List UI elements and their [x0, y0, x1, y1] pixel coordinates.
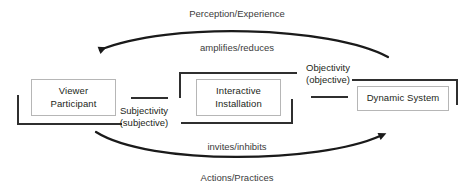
- label-subjectivity-line2: (subjective): [108, 117, 180, 129]
- label-perception-experience: Perception/Experience: [0, 8, 474, 19]
- node-viewer-participant-line1: Viewer: [59, 85, 88, 98]
- rule-subjectivity: [131, 97, 168, 99]
- label-invites-inhibits: invites/inhibits: [0, 141, 474, 152]
- label-subjectivity: Subjectivity (subjective): [108, 105, 180, 129]
- node-viewer-participant: Viewer Participant: [31, 79, 116, 116]
- node-interactive-installation-line1: Interactive: [216, 85, 261, 98]
- node-interactive-installation-line2: Installation: [215, 98, 262, 111]
- label-subjectivity-line1: Subjectivity: [108, 105, 180, 117]
- label-objectivity-line1: Objectivity: [292, 62, 364, 74]
- label-actions-practices: Actions/Practices: [0, 172, 474, 183]
- node-dynamic-system-line1: Dynamic System: [367, 92, 440, 105]
- label-objectivity-line2: (objective): [292, 74, 364, 86]
- label-amplifies-reduces: amplifies/reduces: [0, 42, 474, 53]
- node-interactive-installation: Interactive Installation: [196, 79, 281, 116]
- diagram-canvas: Viewer Participant Interactive Installat…: [0, 0, 474, 189]
- node-dynamic-system: Dynamic System: [357, 86, 449, 111]
- rule-objectivity: [311, 96, 348, 98]
- label-objectivity: Objectivity (objective): [292, 62, 364, 86]
- node-viewer-participant-line2: Participant: [51, 98, 97, 111]
